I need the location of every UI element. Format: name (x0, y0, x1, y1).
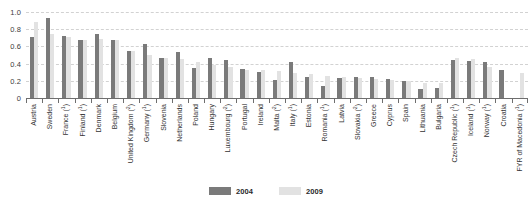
x-tick (236, 99, 252, 103)
x-tick-label: Norway (1) (483, 104, 491, 137)
bar-2009 (277, 71, 281, 98)
bar-group (139, 12, 155, 98)
bar-2009 (83, 40, 87, 98)
x-tick-label: Hungary (208, 104, 216, 130)
x-tick (479, 99, 495, 103)
bar-2009 (358, 78, 362, 98)
x-label-cell: Belgium (107, 104, 123, 178)
bar-group (398, 12, 414, 98)
x-tick (495, 99, 511, 103)
x-tick-label: France (1) (62, 104, 70, 135)
x-tick (91, 99, 107, 103)
x-tick-label: Spain (402, 104, 410, 122)
bar-group (253, 12, 269, 98)
bar-group (512, 12, 528, 98)
x-label-cell: Poland (188, 104, 204, 178)
x-tick-label: Greece (370, 104, 378, 127)
bar-2009 (374, 79, 378, 98)
bar-group (447, 12, 463, 98)
x-label-cell: Romania (1) (317, 104, 333, 178)
x-tick-label: Slovakia (2) (354, 104, 362, 140)
bar-group (220, 12, 236, 98)
x-label-cell: Czech Republic (1) (447, 104, 463, 178)
bar-group (495, 12, 511, 98)
x-tick (512, 99, 528, 103)
x-tick-label: United Kingdom (2) (127, 104, 135, 163)
x-tick (58, 99, 74, 103)
x-tick (75, 99, 91, 103)
x-tick-label: Ireland (257, 104, 265, 125)
x-tick (204, 99, 220, 103)
x-tick (269, 99, 285, 103)
x-tick (156, 99, 172, 103)
x-label-cell: Italy (1) (285, 104, 301, 178)
bar-group (415, 12, 431, 98)
x-tick-label: Malta (2) (273, 104, 281, 131)
x-label-cell: Estonia (301, 104, 317, 178)
bar-2009 (228, 67, 232, 98)
x-tick-label: Slovenia (160, 104, 168, 131)
x-tick-label: Iceland (1) (467, 104, 475, 136)
x-tick-label: Latvia (338, 104, 346, 123)
bar-2009 (212, 65, 216, 98)
legend-swatch (279, 187, 301, 195)
x-tick (431, 99, 447, 103)
bar-group (463, 12, 479, 98)
x-tick-label: Sweden (46, 104, 54, 129)
bar-2009 (180, 59, 184, 98)
bar-group (366, 12, 382, 98)
x-label-cell: Portugal (236, 104, 252, 178)
bar-group (58, 12, 74, 98)
x-label-cell: Luxembourg (2) (220, 104, 236, 178)
bar-group (317, 12, 333, 98)
x-tick (139, 99, 155, 103)
x-label-cell: Cyprus (382, 104, 398, 178)
bar-2009 (99, 39, 103, 98)
x-tick (447, 99, 463, 103)
bar-2009 (342, 77, 346, 98)
y-tick-label: 0.6 (10, 42, 21, 51)
x-tick-label: Bulgaria (435, 104, 443, 130)
x-tick (188, 99, 204, 103)
x-label-cell: Slovenia (156, 104, 172, 178)
bar-group (301, 12, 317, 98)
bar-2009 (520, 73, 524, 98)
bar-2009 (147, 55, 151, 98)
bar-2009 (34, 22, 38, 98)
bar-2009 (293, 73, 297, 98)
x-label-cell: United Kingdom (2) (123, 104, 139, 178)
x-tick-label: Cyprus (386, 104, 394, 126)
legend-label: 2004 (236, 187, 253, 196)
x-tick-label: Czech Republic (1) (451, 104, 459, 163)
bar-group (107, 12, 123, 98)
bar-group (334, 12, 350, 98)
x-tick-label: Denmark (95, 104, 103, 132)
bar-2009 (471, 59, 475, 98)
x-tick-label: Germany (1) (143, 104, 151, 142)
x-label-cell: Malta (2) (269, 104, 285, 178)
x-tick (220, 99, 236, 103)
bar-group (236, 12, 252, 98)
x-tick (123, 99, 139, 103)
x-label-cell: Norway (1) (479, 104, 495, 178)
bar-2009 (245, 70, 249, 98)
bar-2009 (261, 70, 265, 98)
x-tick (398, 99, 414, 103)
chart-legend: 20042009 (0, 184, 532, 198)
x-tick (42, 99, 58, 103)
bar-2009 (455, 58, 459, 98)
x-tick (366, 99, 382, 103)
x-tick (382, 99, 398, 103)
x-axis-ticks (26, 99, 528, 103)
x-tick (317, 99, 333, 103)
bar-2009 (196, 62, 200, 98)
y-tick-label: 0 (17, 94, 21, 103)
x-label-cell: Spain (398, 104, 414, 178)
x-label-cell: Ireland (253, 104, 269, 178)
bar-2009 (50, 34, 54, 99)
bar-group (269, 12, 285, 98)
bar-2009 (164, 58, 168, 98)
x-tick (107, 99, 123, 103)
bar-chart: 1.00.80.60.40.20 AustriaSwedenFrance (1)… (0, 0, 532, 207)
x-tick-label: Estonia (305, 104, 313, 127)
